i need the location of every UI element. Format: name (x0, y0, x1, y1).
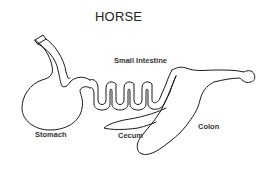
horse-digestive-diagram: HORSE Small Intestine Stomach Cecum Colo… (0, 0, 269, 183)
label-colon: Colon (198, 122, 219, 131)
cecum-shape (104, 108, 166, 130)
colon-shape (137, 67, 255, 154)
digestive-tract-drawing (0, 0, 269, 183)
label-cecum: Cecum (118, 131, 143, 140)
small-intestine-shape (90, 70, 176, 110)
label-stomach: Stomach (35, 130, 67, 139)
stomach-shape (22, 35, 90, 130)
label-small-intestine: Small Intestine (114, 56, 167, 65)
diagram-title: HORSE (95, 9, 142, 24)
